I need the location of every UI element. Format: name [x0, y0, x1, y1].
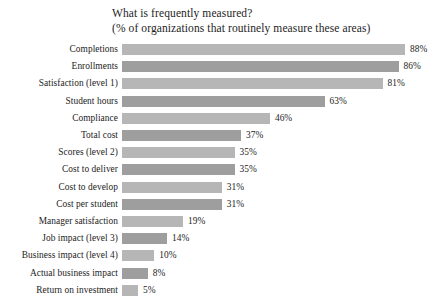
chart-subtitle: (% of organizations that routinely measu… — [112, 21, 442, 36]
bar-category-label: Compliance — [0, 113, 122, 124]
bar-row: Job impact (level 3)14% — [0, 230, 446, 247]
bar-row: Manager satisfaction19% — [0, 213, 446, 230]
bar-track: 37% — [122, 127, 446, 144]
bar — [122, 268, 148, 279]
bar-row: Business impact (level 4)10% — [0, 247, 446, 264]
bar-row: Enrollments86% — [0, 58, 446, 75]
bar-track: 19% — [122, 213, 446, 230]
bar-category-label: Manager satisfaction — [0, 216, 122, 227]
bar-row: Satisfaction (level 1)81% — [0, 75, 446, 92]
bar — [122, 216, 183, 227]
bar-track: 10% — [122, 247, 446, 264]
bar-row: Cost to develop31% — [0, 179, 446, 196]
bar-category-label: Cost per student — [0, 199, 122, 210]
bar-row: Cost per student31% — [0, 196, 446, 213]
bar-category-label: Actual business impact — [0, 268, 122, 279]
bar-track: 88% — [122, 41, 446, 58]
page-title: What is frequently measured? — [112, 6, 442, 21]
bar-track: 35% — [122, 144, 446, 161]
bar — [122, 44, 405, 55]
bar-value-label: 10% — [159, 250, 176, 261]
bar-track: 31% — [122, 196, 446, 213]
bar-track: 8% — [122, 264, 446, 281]
bar-track: 5% — [122, 282, 446, 299]
bar-row: Compliance46% — [0, 110, 446, 127]
bar-track: 81% — [122, 75, 446, 92]
bar-category-label: Job impact (level 3) — [0, 233, 122, 244]
bar — [122, 182, 222, 193]
bar-chart: What is frequently measured? (% of organ… — [0, 0, 446, 308]
bar-track: 63% — [122, 93, 446, 110]
bar-row: Return on investment5% — [0, 282, 446, 299]
bar — [122, 164, 235, 175]
bar-category-label: Satisfaction (level 1) — [0, 78, 122, 89]
bar-value-label: 35% — [240, 147, 257, 158]
bar-category-label: Completions — [0, 44, 122, 55]
bar-value-label: 31% — [227, 182, 244, 193]
bar — [122, 285, 138, 296]
bar — [122, 61, 399, 72]
bar-category-label: Student hours — [0, 96, 122, 107]
bar-value-label: 88% — [410, 44, 427, 55]
bar-row: Cost to deliver35% — [0, 161, 446, 178]
bar-category-label: Total cost — [0, 130, 122, 141]
bar — [122, 96, 325, 107]
bar — [122, 233, 167, 244]
bar-value-label: 81% — [388, 78, 405, 89]
bar — [122, 147, 235, 158]
bar-value-label: 31% — [227, 199, 244, 210]
bar-value-label: 14% — [172, 233, 189, 244]
bar-value-label: 19% — [188, 216, 205, 227]
bar-value-label: 8% — [153, 268, 166, 279]
bar-track: 86% — [122, 58, 446, 75]
chart-title-block: What is frequently measured? (% of organ… — [112, 6, 442, 35]
bar-track: 14% — [122, 230, 446, 247]
bar-track: 35% — [122, 161, 446, 178]
bar — [122, 78, 383, 89]
bar-category-label: Cost to deliver — [0, 164, 122, 175]
bar — [122, 199, 222, 210]
bar-value-label: 5% — [143, 285, 156, 296]
bar-category-label: Enrollments — [0, 61, 122, 72]
bar — [122, 113, 270, 124]
bar-category-label: Business impact (level 4) — [0, 250, 122, 261]
bar-row: Actual business impact8% — [0, 264, 446, 281]
bar-category-label: Scores (level 2) — [0, 147, 122, 158]
bar-value-label: 86% — [404, 61, 421, 72]
bar-value-label: 63% — [330, 96, 347, 107]
bar — [122, 130, 241, 141]
bar-row: Total cost37% — [0, 127, 446, 144]
bar-value-label: 46% — [275, 113, 292, 124]
bar-row: Completions88% — [0, 41, 446, 58]
bar-category-label: Cost to develop — [0, 182, 122, 193]
bar-track: 46% — [122, 110, 446, 127]
bar — [122, 250, 154, 261]
bar-category-label: Return on investment — [0, 285, 122, 296]
bar-row: Scores (level 2)35% — [0, 144, 446, 161]
bar-value-label: 35% — [240, 164, 257, 175]
bar-track: 31% — [122, 179, 446, 196]
plot-area: Completions88%Enrollments86%Satisfaction… — [0, 41, 446, 301]
bar-row: Student hours63% — [0, 93, 446, 110]
bar-value-label: 37% — [246, 130, 263, 141]
